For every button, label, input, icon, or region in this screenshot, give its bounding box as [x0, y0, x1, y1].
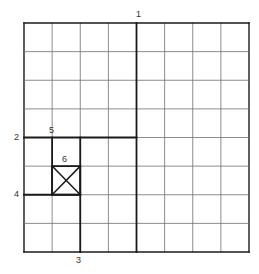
label-cut-2: 2	[14, 132, 19, 142]
grid-diagram: 1 2 3 4 5 6	[0, 0, 259, 274]
label-cut-5: 5	[49, 125, 54, 135]
label-cut-3: 3	[76, 255, 81, 265]
marked-cell	[52, 166, 80, 195]
label-cut-4: 4	[14, 189, 19, 199]
label-cut-1: 1	[136, 9, 141, 19]
label-marked-cell-6: 6	[62, 154, 67, 164]
